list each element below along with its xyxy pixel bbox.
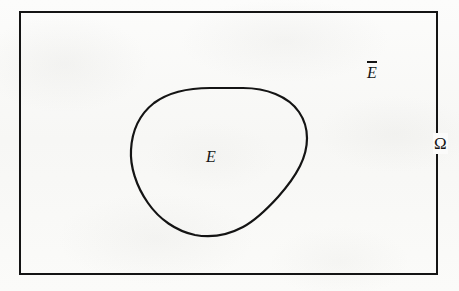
overbar-accent [367, 61, 377, 63]
universe-rectangle [20, 12, 437, 274]
complement-e-bar-label: E [367, 61, 377, 81]
set-diagram-canvas [0, 0, 459, 291]
set-e-boundary-curve [131, 88, 307, 236]
complement-e-glyph: E [367, 65, 377, 81]
figure-root: E E Ω [0, 0, 459, 291]
omega-label: Ω [433, 133, 448, 154]
set-e-label: E [206, 149, 216, 165]
